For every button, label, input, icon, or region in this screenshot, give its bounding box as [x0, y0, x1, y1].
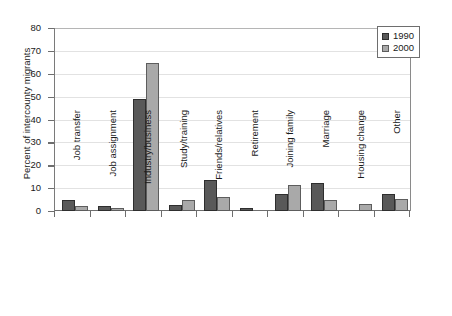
x-tick-mark	[161, 211, 162, 217]
x-tick-label: Study/training	[179, 110, 189, 220]
y-tick-label: 40	[7, 115, 41, 124]
y-tick-label: 20	[7, 160, 41, 169]
x-tick-mark	[338, 211, 339, 217]
x-tick-label: Housing change	[356, 110, 366, 220]
x-tick-mark	[125, 211, 126, 217]
legend-label-1990: 1990	[393, 31, 414, 41]
y-tick-label: 60	[7, 69, 41, 78]
legend-swatch-1990-icon	[382, 33, 389, 40]
x-tick-mark	[409, 211, 410, 217]
y-tick-label: 80	[7, 23, 41, 32]
x-tick-label: Job transfer	[72, 110, 82, 220]
x-tick-label: Marriage	[321, 110, 331, 220]
x-tick-label: Job assignment	[108, 110, 118, 220]
y-tick-label: 50	[7, 92, 41, 101]
legend: 1990 2000	[377, 26, 420, 58]
y-tick-label: 30	[7, 137, 41, 146]
y-tick-label: 10	[7, 183, 41, 192]
x-tick-mark	[374, 211, 375, 217]
legend-item-2000: 2000	[382, 42, 414, 54]
y-tick-label: 70	[7, 46, 41, 55]
x-tick-mark	[232, 211, 233, 217]
legend-swatch-2000-icon	[382, 45, 389, 52]
y-tick-label: 0	[7, 206, 41, 215]
x-tick-label: Other	[392, 110, 402, 220]
x-tick-mark	[303, 211, 304, 217]
x-tick-mark	[90, 211, 91, 217]
x-tick-mark	[54, 211, 55, 217]
x-tick-label: Industry/business	[143, 110, 153, 220]
x-tick-label: Friends/relatives	[214, 110, 224, 220]
legend-label-2000: 2000	[393, 43, 414, 53]
legend-item-1990: 1990	[382, 30, 414, 42]
x-tick-mark	[267, 211, 268, 217]
x-tick-label: Retirement	[250, 110, 260, 220]
x-tick-label: Joining family	[285, 110, 295, 220]
bar-chart: Percent of intercounty migrants 80706050…	[0, 0, 452, 316]
x-tick-mark	[196, 211, 197, 217]
